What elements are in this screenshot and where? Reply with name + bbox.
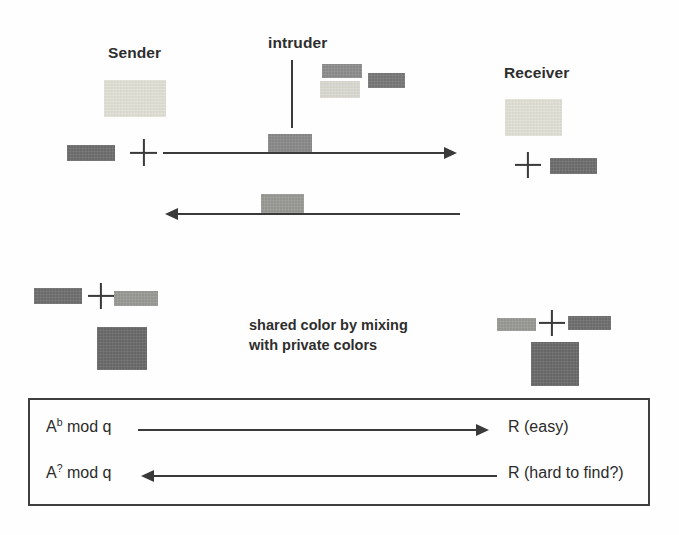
math-row-1-left-expression: Ab mod q — [46, 418, 111, 436]
math-row-1-suffix: mod q — [63, 418, 112, 435]
outbound-arrowhead-icon — [444, 147, 457, 159]
intruder-captured-bar-1 — [322, 64, 362, 78]
inbound-arrow-line — [178, 213, 460, 215]
intruder-tap-line — [291, 60, 293, 128]
math-row-2-arrow-line — [154, 475, 497, 477]
outbound-arrow-line — [163, 152, 446, 154]
mix-right-result — [531, 342, 579, 386]
receiver-label: Receiver — [504, 64, 569, 82]
inbound-arrowhead-icon — [165, 208, 178, 220]
receiver-private-color-swatch — [550, 158, 597, 174]
receiver-plus-icon — [515, 152, 541, 178]
mix-left-operand-b — [114, 291, 158, 306]
mix-left-plus-icon — [88, 283, 114, 309]
transit-bar-outbound — [268, 134, 312, 152]
math-row-1-arrow-line — [138, 429, 478, 431]
math-row-2-left-expression: A? mod q — [46, 464, 111, 482]
math-row-1-base: A — [46, 418, 57, 435]
math-row-2-base: A — [46, 464, 57, 481]
intruder-label: intruder — [268, 34, 327, 52]
mix-right-operand-b — [568, 316, 611, 330]
mix-left-result — [97, 327, 147, 370]
math-row-2-suffix: mod q — [63, 464, 112, 481]
math-row-2-right-label: R (hard to find?) — [508, 464, 624, 482]
mix-left-operand-a — [34, 288, 82, 304]
sender-plus-icon — [130, 139, 157, 166]
modular-arithmetic-box: Ab mod q R (easy) A? mod q R (hard to fi… — [28, 398, 650, 506]
caption-line-2: with private colors — [249, 335, 408, 355]
mix-right-plus-icon — [539, 310, 565, 336]
math-row-1-right-label: R (easy) — [508, 418, 568, 436]
mix-right-operand-a — [497, 318, 536, 331]
receiver-public-color-swatch — [505, 99, 562, 136]
sender-label: Sender — [108, 44, 161, 62]
sender-public-color-swatch — [104, 80, 166, 117]
shared-color-caption: shared color by mixing with private colo… — [249, 315, 408, 355]
intruder-captured-bar-3 — [368, 73, 405, 88]
intruder-captured-bar-2 — [320, 81, 360, 98]
diffie-hellman-color-mixing-diagram: Sender intruder Receiver shared color by… — [0, 0, 679, 535]
transit-bar-inbound — [261, 194, 304, 213]
sender-private-color-swatch — [67, 145, 115, 161]
math-row-2-arrowhead-icon — [141, 470, 154, 482]
math-row-1-arrowhead-icon — [476, 424, 489, 436]
caption-line-1: shared color by mixing — [249, 315, 408, 335]
